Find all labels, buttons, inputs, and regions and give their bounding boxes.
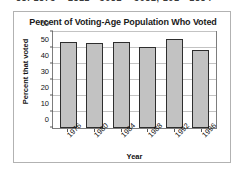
y-tick-label: 10 (41, 99, 49, 108)
bar-slot (86, 32, 103, 128)
bar-series (53, 32, 216, 128)
bar-slot (60, 32, 77, 128)
bar-slot (113, 32, 130, 128)
bar-1996 (192, 50, 209, 128)
y-tick-label: 60 (41, 19, 49, 28)
y-tick-label: 40 (41, 51, 49, 60)
chart-figure-frame: Percent of Voting-Age Population Who Vot… (13, 11, 231, 163)
y-tick-label: 30 (41, 67, 49, 76)
bar-1980 (86, 43, 103, 128)
y-tick-label: 20 (41, 83, 49, 92)
bar-1992 (166, 39, 183, 128)
bar-slot (192, 32, 209, 128)
plot-area: 0102030405060 (52, 31, 217, 129)
y-tick-label: 50 (41, 35, 49, 44)
bar-slot (166, 32, 183, 128)
bar-slot (139, 32, 156, 128)
clipped-header-text: 88. 1875 + 2811 - 3082 + 3082, 101 - 188… (16, 0, 212, 3)
y-axis-label: Percent that voted (21, 32, 30, 112)
y-tick-label: 0 (45, 115, 49, 124)
bar-1984 (113, 42, 130, 128)
bar-1988 (139, 47, 156, 128)
bar-1976 (60, 42, 77, 128)
x-axis-label: Year (52, 152, 217, 161)
clipped-header-strip: 88. 1875 + 2811 - 3082 + 3082, 101 - 188… (0, 0, 245, 8)
